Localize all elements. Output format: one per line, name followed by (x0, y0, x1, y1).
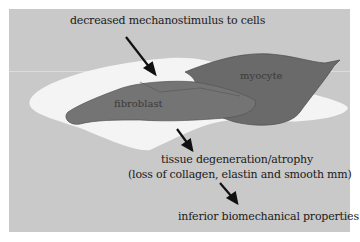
label-inferior-biomechanical: inferior biomechanical properties (178, 210, 359, 223)
label-fibroblast: fibroblast (114, 98, 163, 109)
label-decreased-mechanostimulus: decreased mechanostimulus to cells (70, 14, 265, 27)
label-loss-of-collagen: (loss of collagen, elastin and smooth mm… (128, 168, 352, 181)
arrow-bottom (220, 183, 237, 203)
cell-illustration (0, 0, 360, 242)
label-tissue-degeneration: tissue degeneration/atrophy (161, 153, 313, 166)
label-myocyte: myocyte (240, 70, 282, 81)
